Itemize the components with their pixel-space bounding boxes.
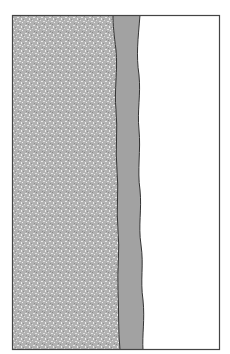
cross-section-diagram: [0, 0, 230, 354]
textured-substrate: [12, 15, 120, 350]
